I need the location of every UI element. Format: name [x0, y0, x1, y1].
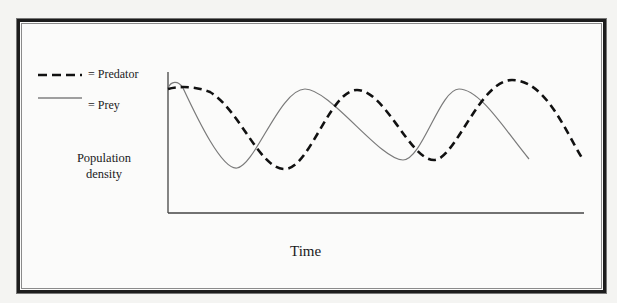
legend-prey-label: = Prey — [88, 98, 120, 113]
y-axis-label: Population density — [64, 150, 144, 182]
y-axis-label-line2: density — [64, 166, 144, 182]
x-axis-label: Time — [290, 243, 321, 260]
y-axis-label-line1: Population — [64, 150, 144, 166]
legend-predator-label: = Predator — [88, 67, 138, 82]
predator-curve — [168, 80, 582, 169]
prey-curve — [168, 82, 529, 168]
